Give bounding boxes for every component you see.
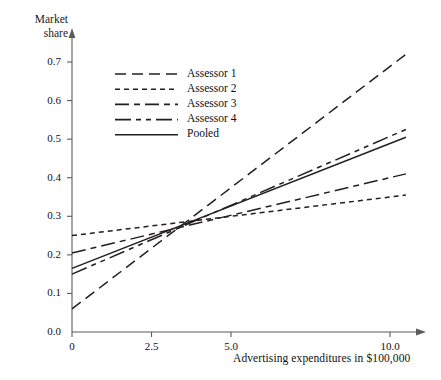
series-line-5 <box>72 137 406 268</box>
y-tick-label: 0.3 <box>27 209 61 221</box>
series-line-2 <box>72 195 406 235</box>
y-tick-label: 0.2 <box>27 248 61 260</box>
y-tick-label: 0.6 <box>27 94 61 106</box>
y-tick-label: 0.4 <box>27 171 61 183</box>
legend-label-1: Assessor 1 <box>187 67 237 79</box>
x-tick-label: 0 <box>52 340 92 352</box>
legend-label-5: Pooled <box>187 127 219 139</box>
y-tick-label: 0.5 <box>27 132 61 144</box>
y-tick-label: 0.7 <box>27 55 61 67</box>
market-share-line-chart: Market share Advertising expenditures in… <box>0 0 441 380</box>
series-line-1 <box>72 54 406 309</box>
y-tick-label: 0.0 <box>27 325 61 337</box>
plot-area <box>0 0 441 380</box>
legend-label-4: Assessor 4 <box>187 112 237 124</box>
x-tick-label: 5.0 <box>211 340 251 352</box>
legend-label-2: Assessor 2 <box>187 82 237 94</box>
x-tick-label: 10.0 <box>370 340 410 352</box>
series-lines-group <box>72 54 406 309</box>
y-tick-label: 0.1 <box>27 286 61 298</box>
series-line-4 <box>72 130 406 275</box>
legend-label-3: Assessor 3 <box>187 97 237 109</box>
series-line-3 <box>72 174 406 253</box>
legend-swatch-group <box>115 74 178 135</box>
x-tick-label: 2.5 <box>132 340 172 352</box>
